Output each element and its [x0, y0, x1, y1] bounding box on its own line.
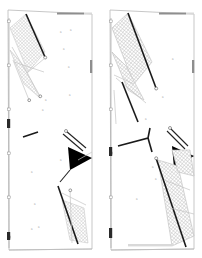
right-right-wall-band — [192, 60, 194, 73]
ruler-tick — [8, 152, 11, 155]
ruler-tick — [8, 108, 11, 111]
ruler-tick — [110, 64, 113, 67]
left-top-wall-band-2 — [84, 13, 92, 15]
right-lower-node — [155, 157, 158, 160]
right-top-wall-band-2 — [186, 13, 194, 15]
right-diagonal-end-node — [155, 87, 158, 90]
right-arrow-top-node — [169, 127, 172, 130]
left-panel: a a a a a a a a a a a a — [7, 10, 92, 250]
left-lower-node — [69, 189, 72, 192]
left-ruler-dark-segment-2 — [7, 232, 10, 240]
plan-svg: a a a a a a a a a a a a — [0, 0, 202, 258]
ruler-tick — [8, 20, 11, 23]
right-bottom-wall-band — [128, 244, 172, 246]
right-ruler-dark-segment-2 — [109, 228, 112, 238]
ruler-tick — [110, 20, 113, 23]
ruler-tick — [8, 196, 11, 199]
left-ruler-dark-segment — [7, 119, 10, 128]
diagram-canvas: a a a a a a a a a a a a — [0, 0, 202, 258]
ruler-tick — [110, 108, 113, 111]
right-ruler-dark-segment — [109, 147, 112, 156]
left-right-wall-band — [90, 60, 92, 73]
ruler-tick — [8, 64, 11, 67]
right-top-wall-band — [159, 13, 186, 15]
left-arrow-top-node — [65, 130, 68, 133]
left-strut-node-2 — [28, 99, 31, 102]
ruler-tick — [110, 196, 113, 199]
left-strut-node — [39, 95, 42, 98]
left-top-wall-band — [57, 13, 84, 15]
right-panel: a a a a a a — [109, 10, 194, 250]
